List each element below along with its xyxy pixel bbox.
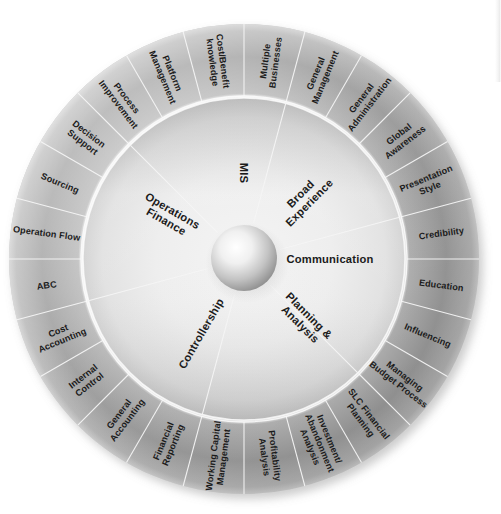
diagram-canvas: ABCOperation FlowSourcingDecisionSupport… [0, 0, 501, 514]
inner-sector-label: MIS [238, 163, 250, 184]
inner-sector-1: MIS [238, 163, 250, 184]
competency-wheel: ABCOperation FlowSourcingDecisionSupport… [0, 0, 501, 514]
inner-sector-3: Communication [286, 253, 373, 265]
inner-sector-label: Communication [286, 253, 373, 265]
center-sphere [211, 225, 277, 291]
